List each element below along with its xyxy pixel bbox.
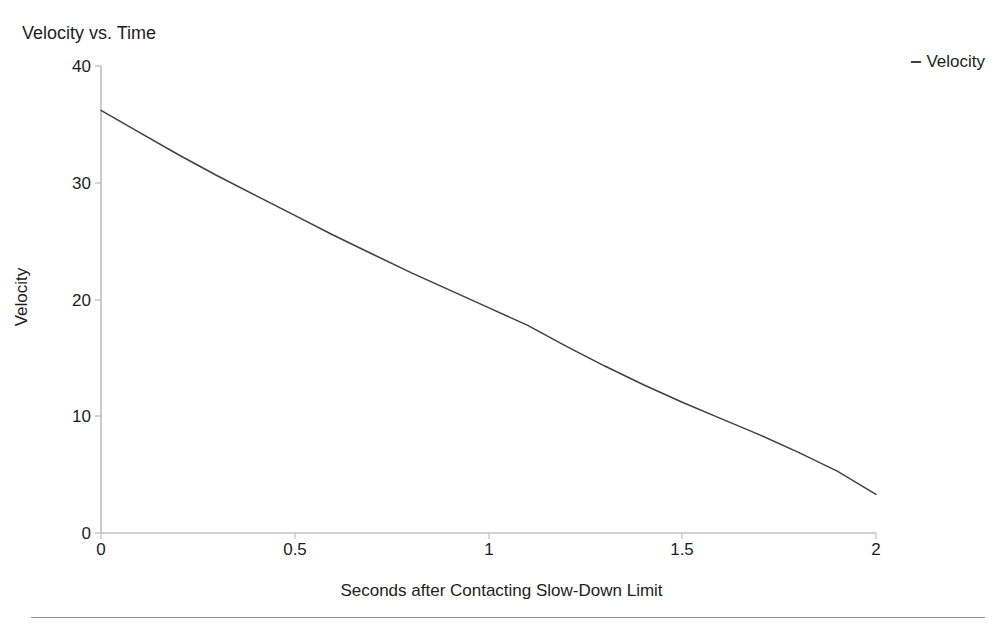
x-tick-label: 1.5 (642, 541, 722, 558)
y-axis-title: Velocity (13, 237, 31, 357)
x-tick-label: 2 (836, 541, 916, 558)
x-axis-tick-labels: 0 0.5 1 1.5 2 (0, 541, 1003, 565)
y-tick-label: 10 (31, 408, 91, 425)
y-tick-label: 0 (31, 525, 91, 542)
data-series-velocity (101, 110, 876, 494)
footer-divider (31, 617, 985, 618)
x-tick-label: 0 (61, 541, 141, 558)
y-tick-label: 20 (31, 292, 91, 309)
x-axis-ticks (101, 533, 876, 539)
x-tick-label: 1 (449, 541, 529, 558)
y-axis-ticks (95, 66, 101, 533)
x-axis-title: Seconds after Contacting Slow-Down Limit (0, 581, 1003, 601)
chart-figure: Velocity vs. Time Velocity 40 30 (0, 0, 1003, 632)
x-tick-label: 0.5 (255, 541, 335, 558)
y-tick-label: 30 (31, 175, 91, 192)
y-axis-tick-labels: 40 30 20 10 0 (31, 0, 91, 632)
y-tick-label: 40 (31, 58, 91, 75)
plot-area (0, 0, 1003, 632)
